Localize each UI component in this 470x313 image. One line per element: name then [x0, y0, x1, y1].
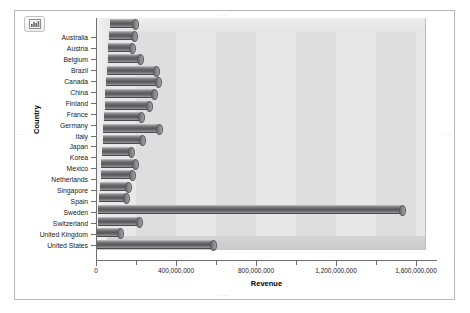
y-axis-line — [96, 18, 97, 260]
x-axis-tick — [96, 261, 97, 266]
x-axis-tick — [136, 261, 137, 265]
bar-belgium[interactable] — [108, 43, 133, 52]
x-axis-tick — [296, 261, 297, 265]
y-axis-tick — [91, 103, 96, 104]
plot-left-wall-3d — [96, 18, 110, 250]
y-axis-tick — [91, 114, 96, 115]
y-axis-title: Country — [32, 105, 41, 134]
bar-switzerland[interactable] — [98, 217, 140, 226]
y-axis-tick — [91, 48, 96, 49]
x-axis-tick — [216, 261, 217, 265]
y-axis-tick-label: Belgium — [63, 56, 88, 63]
bar-end-cap — [153, 66, 160, 77]
y-axis-tick — [91, 125, 96, 126]
x-axis-tick — [416, 261, 417, 266]
y-axis-tick-label: Singapore — [57, 187, 88, 194]
plot-background-bands — [96, 18, 426, 250]
bar-italy[interactable] — [103, 124, 160, 133]
bar-brazil[interactable] — [108, 54, 141, 63]
y-axis-tick-label: China — [70, 88, 88, 95]
bar-united-kingdom[interactable] — [97, 228, 121, 237]
bar-germany[interactable] — [104, 112, 142, 121]
y-axis-tick — [91, 59, 96, 60]
x-axis-tick — [336, 261, 337, 266]
plot-right-border — [425, 18, 426, 250]
y-axis-tick — [91, 146, 96, 147]
bar-end-cap — [128, 147, 135, 158]
x-axis-title: Revenue — [96, 279, 437, 288]
bar-canada[interactable] — [107, 66, 157, 75]
y-axis-tick — [91, 234, 96, 235]
bar-mexico[interactable] — [101, 159, 136, 168]
bar-end-cap — [139, 135, 146, 146]
y-axis-tick-label: Brazil — [71, 67, 88, 74]
y-axis-tick-label: Spain — [71, 197, 88, 204]
x-axis-tick — [176, 261, 177, 266]
y-axis-tick-label: Canada — [64, 78, 88, 85]
y-axis-tick — [91, 223, 96, 224]
plot-area — [96, 18, 426, 250]
bar-spain[interactable] — [99, 193, 127, 202]
y-axis-tick — [91, 168, 96, 169]
y-axis-tick-label: France — [67, 110, 88, 117]
bar-end-cap — [129, 43, 136, 54]
x-axis-tick — [256, 261, 257, 266]
bar-china[interactable] — [106, 77, 159, 86]
y-axis-tick — [91, 201, 96, 202]
y-axis-tick — [91, 212, 96, 213]
bar-end-cap — [131, 31, 138, 42]
y-axis-tick — [91, 157, 96, 158]
y-axis-tick-label: Germany — [60, 121, 88, 128]
x-axis-tick-label: 1,600,000,000 — [395, 267, 437, 274]
y-axis-tick-label: Japan — [69, 143, 88, 150]
bar-end-cap — [137, 54, 144, 65]
y-axis-tick-label: Austria — [67, 45, 88, 52]
bottom-handle-dots: ···· — [219, 292, 228, 298]
y-axis-tick-label: Italy — [76, 132, 88, 139]
y-axis-tick-label: Netherlands — [51, 176, 88, 183]
y-axis-tick — [91, 92, 96, 93]
bar-end-cap — [125, 182, 132, 193]
y-axis-tick — [91, 37, 96, 38]
y-axis-tick-label: Mexico — [66, 165, 88, 172]
y-axis-tick — [91, 70, 96, 71]
bar-united-states[interactable] — [96, 240, 214, 249]
bar-australia[interactable] — [110, 19, 136, 28]
y-axis-tick-label: United States — [47, 241, 88, 248]
y-axis-tick-label: United Kingdom — [40, 230, 88, 237]
bar-end-cap — [129, 170, 136, 181]
bar-singapore[interactable] — [100, 182, 129, 191]
x-axis-tick-label: 1,200,000,000 — [315, 267, 357, 274]
x-axis-tick — [376, 261, 377, 265]
x-axis-tick-label: 400,000,000 — [158, 267, 194, 274]
bar-finland[interactable] — [105, 89, 155, 98]
bar-end-cap — [146, 101, 153, 112]
chart-tool-icon — [29, 19, 41, 29]
bar-japan[interactable] — [103, 135, 143, 144]
y-axis-tick-label: Korea — [70, 154, 88, 161]
y-axis-tick — [91, 136, 96, 137]
x-axis-line — [96, 260, 437, 261]
bar-austria[interactable] — [109, 31, 135, 40]
y-axis-tick — [91, 81, 96, 82]
bar-france[interactable] — [105, 101, 150, 110]
y-axis-tick — [91, 245, 96, 246]
x-axis-tick-label: 0 — [94, 267, 98, 274]
y-axis-tick-label: Australia — [62, 34, 88, 41]
chart-tool-button[interactable] — [24, 16, 45, 32]
bar-end-cap — [132, 159, 139, 170]
y-axis-tick-label: Finland — [66, 99, 88, 106]
plot-ceiling-3d — [96, 18, 426, 32]
bar-end-cap — [136, 217, 143, 228]
right-handle-dots: ···· — [443, 131, 452, 137]
y-axis-tick — [91, 190, 96, 191]
left-handle-dots: ···· — [17, 131, 26, 137]
bar-end-cap — [132, 19, 139, 30]
bar-korea[interactable] — [102, 147, 132, 156]
y-axis-tick-label: Sweden — [63, 208, 88, 215]
y-axis-tick — [91, 179, 96, 180]
y-axis-tick-label: Switzerland — [53, 219, 88, 226]
bar-sweden[interactable] — [98, 205, 403, 214]
x-axis-tick-label: 800,000,000 — [238, 267, 274, 274]
bar-netherlands[interactable] — [101, 170, 133, 179]
